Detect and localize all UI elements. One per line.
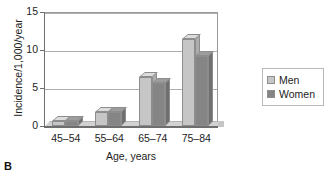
- legend-label-men: Men: [279, 75, 299, 86]
- y-tick-label-0: 0: [16, 120, 38, 131]
- panel-letter: B: [4, 160, 12, 172]
- figure-panel-b: Incidence/1,000/year 051015 45–5455–6465…: [0, 0, 330, 179]
- y-tick-label-10: 10: [16, 44, 38, 55]
- bar-front-face: [195, 56, 208, 126]
- women-swatch-icon: [267, 90, 275, 98]
- men-swatch-icon: [267, 76, 275, 84]
- bar-women-45-54: [65, 121, 78, 126]
- bar-front-face: [52, 121, 65, 126]
- bar-front-face: [108, 112, 121, 126]
- legend-item-men[interactable]: Men: [267, 73, 319, 87]
- y-tick-label-15: 15: [16, 6, 38, 17]
- bar-men-45-54: [52, 121, 65, 126]
- y-tick-mark-15: [40, 12, 44, 13]
- gridline-15: [45, 13, 217, 14]
- bar-front-face: [152, 83, 165, 126]
- legend-item-women[interactable]: Women: [267, 87, 319, 101]
- bar-front-face: [95, 112, 108, 126]
- x-tick-label-55-64: 55–64: [88, 132, 132, 144]
- bar-men-55-64: [95, 112, 108, 126]
- legend-label-women: Women: [279, 89, 315, 100]
- x-tick-label-75-84: 75–84: [175, 132, 219, 144]
- bar-front-face: [139, 77, 152, 126]
- bar-men-65-74: [139, 77, 152, 126]
- y-axis-title: Incidence/1,000/year: [12, 6, 24, 130]
- y-tick-mark-10: [40, 50, 44, 51]
- y-tick-label-5: 5: [16, 82, 38, 93]
- x-tick-label-65-74: 65–74: [131, 132, 175, 144]
- legend: Men Women: [262, 68, 324, 106]
- x-axis-title: Age, years: [44, 150, 218, 162]
- bar-women-75-84: [195, 56, 208, 126]
- bar-front-face: [182, 39, 195, 126]
- x-axis-baseline: [44, 126, 218, 128]
- x-tick-label-45-54: 45–54: [44, 132, 88, 144]
- y-tick-mark-5: [40, 88, 44, 89]
- y-tick-mark-0: [40, 126, 44, 127]
- bar-side-face: [165, 78, 170, 126]
- bar-front-face: [65, 121, 78, 126]
- bar-side-face: [208, 51, 213, 126]
- bar-women-65-74: [152, 83, 165, 126]
- cut-off-title-remnant: [64, 0, 274, 2]
- axis-floor-right-edge: [218, 121, 224, 127]
- bar-women-55-64: [108, 112, 121, 126]
- bar-men-75-84: [182, 39, 195, 126]
